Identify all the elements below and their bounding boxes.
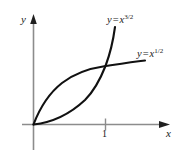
plot-canvas — [0, 0, 181, 159]
curve-label-equals: = — [112, 14, 120, 25]
function-graph-figure: y x 1 y=x3/2 y=x1/2 — [0, 0, 181, 159]
y-axis-label: y — [21, 14, 26, 25]
curve-label-exponent: 3/2 — [124, 13, 133, 21]
curve-label-lhs: y — [137, 48, 142, 59]
curve-label-x-power-three-halves: y=x3/2 — [107, 15, 133, 26]
x-axis-label: x — [166, 128, 171, 139]
curve-label-x-power-one-half: y=x1/2 — [137, 49, 163, 60]
x-tick-label-1: 1 — [102, 129, 107, 139]
y-axis-arrowhead — [30, 14, 37, 24]
curve-label-exponent: 1/2 — [154, 47, 163, 55]
curve-label-lhs: y — [107, 14, 112, 25]
curve-x-power-one-half — [34, 61, 146, 125]
curve-label-equals: = — [142, 48, 150, 59]
